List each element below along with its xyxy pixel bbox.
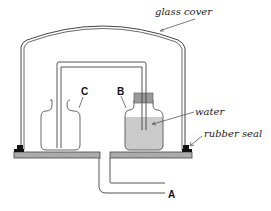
label-b: B (117, 86, 124, 97)
water (125, 117, 163, 150)
label-rubber-seal: rubber seal (204, 128, 262, 139)
empty-bottle-c (41, 100, 80, 150)
stopper (134, 93, 153, 103)
bottle-b (125, 93, 163, 150)
apparatus-diagram: glass cover water rubber seal A B C (0, 0, 271, 211)
base-plate (14, 152, 192, 158)
outlet-tube-a (99, 158, 165, 193)
label-c: C (81, 86, 88, 97)
label-water: water (195, 106, 225, 117)
label-glass-cover: glass cover (155, 6, 213, 17)
label-a: A (168, 189, 175, 200)
